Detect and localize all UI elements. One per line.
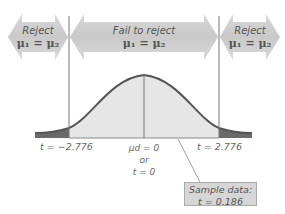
fail-to-reject-label: Fail to reject μ₁ = μ₂ (90, 24, 198, 50)
sample-data-box: Sample data: t = 0.186 (184, 182, 257, 206)
hypothesis-test-diagram: Reject μ₁ = μ₂ Fail to reject μ₁ = μ₂ Re… (0, 0, 285, 214)
sample-data-title: Sample data: (185, 184, 256, 196)
center-labels: μd = 0 or t = 0 (119, 142, 169, 178)
sample-data-value: t = 0.186 (185, 196, 256, 208)
left-critical-value: t = −2.776 (40, 141, 93, 152)
center-or-label: or (119, 154, 169, 166)
right-reject-hypothesis: μ₁ = μ₂ (224, 37, 276, 50)
fail-to-reject-hypothesis: μ₁ = μ₂ (90, 37, 198, 50)
left-reject-text: Reject (12, 24, 64, 37)
fail-to-reject-text: Fail to reject (90, 24, 198, 37)
left-reject-label: Reject μ₁ = μ₂ (12, 24, 64, 50)
center-t-label: t = 0 (119, 166, 169, 178)
right-critical-value: t = 2.776 (197, 141, 242, 152)
center-mean-label: μd = 0 (119, 142, 169, 154)
right-reject-label: Reject μ₁ = μ₂ (224, 24, 276, 50)
right-reject-text: Reject (224, 24, 276, 37)
left-reject-hypothesis: μ₁ = μ₂ (12, 37, 64, 50)
